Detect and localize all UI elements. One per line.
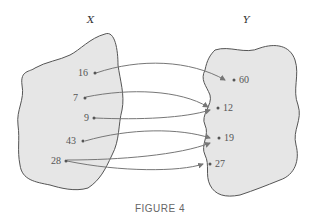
diagram-canvas bbox=[0, 0, 320, 219]
set-x-region bbox=[18, 33, 123, 189]
figure-caption: FIGURE 4 bbox=[0, 203, 320, 214]
x-element: 9 bbox=[84, 112, 89, 123]
x-element: 28 bbox=[51, 155, 61, 166]
x-element: 16 bbox=[78, 67, 88, 78]
set-y-label: Y bbox=[243, 14, 250, 25]
set-x-label: X bbox=[87, 14, 94, 25]
x-element: 43 bbox=[66, 135, 76, 146]
set-y-region bbox=[203, 46, 299, 197]
x-element: 7 bbox=[73, 92, 78, 103]
y-element: 60 bbox=[239, 74, 249, 85]
y-element: 27 bbox=[215, 158, 225, 169]
y-element: 12 bbox=[223, 102, 233, 113]
y-element: 19 bbox=[224, 132, 234, 143]
